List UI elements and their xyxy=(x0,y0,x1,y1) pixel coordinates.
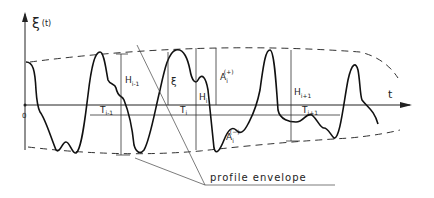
label-T-prev: Ti-1 xyxy=(99,105,113,116)
label-T-next: Ti+1 xyxy=(301,105,318,116)
label-H-next: Hi+1 xyxy=(294,87,311,99)
label-H-prev: Hi-1 xyxy=(125,75,140,87)
label-A-minus: Ai(−) xyxy=(226,128,240,144)
upper-envelope xyxy=(30,48,398,78)
origin-dot xyxy=(24,104,27,107)
label-xi: ξ xyxy=(171,76,177,87)
label-A-plus: Ai(+) xyxy=(220,68,234,84)
wave-profile-diagram: Hi-1 ξ Hi Ai(+) Ai(−) Hi+1 Ti-1 Ti Ti+1 … xyxy=(0,0,434,198)
label-T-cur: Ti xyxy=(179,105,188,116)
leader-line-2 xyxy=(135,158,205,185)
label-H-cur: Hi xyxy=(199,92,208,104)
x-axis-arrow-icon xyxy=(400,102,412,108)
x-axis-label: t xyxy=(388,88,393,101)
annotation-profile-envelope: profile envelope xyxy=(210,172,307,183)
y-axis-label: ξ(t) xyxy=(32,15,51,31)
origin-label: 0 xyxy=(22,112,26,120)
y-axis-arrow-icon xyxy=(22,12,28,22)
